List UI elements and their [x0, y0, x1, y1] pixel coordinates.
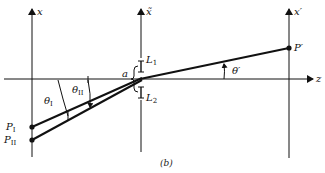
l2-label: L2	[146, 93, 157, 105]
l1-label: L1	[146, 55, 157, 67]
x-tilde-axis-label: x̃	[146, 7, 152, 17]
theta-prime-label: θ′	[232, 66, 240, 76]
angle-theta-1-arc	[58, 80, 68, 116]
z-axis-label: z	[316, 74, 321, 84]
point-p1	[29, 124, 34, 129]
ray-p-prime	[140, 48, 289, 79]
point-p2	[29, 137, 34, 142]
ray-p2	[32, 80, 142, 140]
x-prime-axis-label: x′	[294, 7, 302, 17]
x-axis-label: x	[37, 7, 43, 17]
p2-label: PII	[4, 135, 16, 147]
angle-theta-prime-arc	[224, 64, 225, 79]
figure-caption: (b)	[160, 159, 173, 168]
p-prime-label: P′	[294, 43, 303, 53]
aperture-width-label: a	[122, 69, 128, 79]
diffraction-diagram	[0, 0, 325, 173]
theta-2-label: θII	[72, 85, 84, 97]
p1-label: PI	[6, 122, 16, 134]
theta-1-label: θI	[44, 96, 53, 108]
point-p-prime	[286, 45, 291, 50]
